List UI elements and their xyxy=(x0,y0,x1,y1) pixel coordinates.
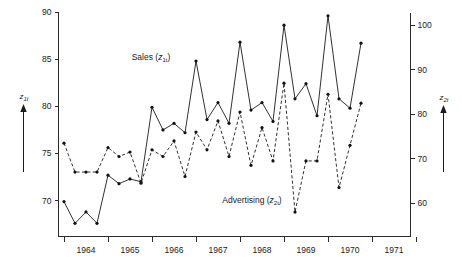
left-axis-ticks: 7075808590 xyxy=(42,7,58,206)
data-point-marker xyxy=(216,119,219,122)
data-point-marker xyxy=(194,130,197,133)
sales-series-markers xyxy=(62,14,362,225)
data-point-marker xyxy=(95,222,98,225)
right-tick-label: 60 xyxy=(418,198,428,208)
right-tick-label: 90 xyxy=(418,65,428,75)
data-point-marker xyxy=(172,122,175,125)
data-point-marker xyxy=(238,41,241,44)
data-point-marker xyxy=(282,24,285,27)
data-point-marker xyxy=(205,118,208,121)
right-tick-label: 70 xyxy=(418,154,428,164)
left-tick-label: 80 xyxy=(42,101,52,111)
data-point-marker xyxy=(128,177,131,180)
x-tick-label: 1971 xyxy=(385,245,404,255)
data-point-marker xyxy=(315,114,318,117)
x-tick-label: 1970 xyxy=(341,245,360,255)
sales-series-line xyxy=(64,16,361,224)
data-point-marker xyxy=(73,170,76,173)
data-point-marker xyxy=(227,155,230,158)
data-point-marker xyxy=(260,126,263,129)
right-axis-title-group: z2t xyxy=(438,93,448,172)
data-point-marker xyxy=(348,107,351,110)
x-tick-label: 1968 xyxy=(253,245,272,255)
data-point-marker xyxy=(326,93,329,96)
data-point-marker xyxy=(249,164,252,167)
data-point-marker xyxy=(139,182,142,185)
data-point-marker xyxy=(315,159,318,162)
data-point-marker xyxy=(238,110,241,113)
left-tick-label: 75 xyxy=(42,148,52,158)
data-point-marker xyxy=(106,174,109,177)
data-point-marker xyxy=(150,148,153,151)
x-tick-label: 1969 xyxy=(297,245,316,255)
right-axis-title: z2t xyxy=(438,93,448,103)
data-point-marker xyxy=(260,101,263,104)
data-point-marker xyxy=(348,144,351,147)
data-point-marker xyxy=(183,175,186,178)
data-point-marker xyxy=(205,148,208,151)
x-axis-ticks xyxy=(64,237,416,242)
sales-advertising-timeseries-chart: 7075808590 60708090100 19641965196619671… xyxy=(0,0,462,264)
data-point-marker xyxy=(73,222,76,225)
data-point-marker xyxy=(183,131,186,134)
advertising-series-markers xyxy=(62,82,362,214)
left-axis-title: z1t xyxy=(18,92,28,102)
data-point-marker xyxy=(359,102,362,105)
left-axis: 7075808590 xyxy=(42,7,58,237)
right-axis: 60708090100 xyxy=(411,13,432,237)
right-axis-arrow-head xyxy=(440,105,446,113)
data-point-marker xyxy=(84,170,87,173)
left-tick-label: 85 xyxy=(42,54,52,64)
data-point-marker xyxy=(326,14,329,17)
series-group xyxy=(62,14,362,225)
data-point-marker xyxy=(194,59,197,62)
data-point-marker xyxy=(227,122,230,125)
data-point-marker xyxy=(249,109,252,112)
data-point-marker xyxy=(271,120,274,123)
data-point-marker xyxy=(282,82,285,85)
data-point-marker xyxy=(359,42,362,45)
data-point-marker xyxy=(106,146,109,149)
x-tick-label: 1965 xyxy=(121,245,140,255)
data-point-marker xyxy=(304,159,307,162)
data-point-marker xyxy=(117,155,120,158)
sales-series-annotation: Sales (z1t) xyxy=(132,52,171,63)
data-point-marker xyxy=(117,182,120,185)
data-point-marker xyxy=(293,97,296,100)
data-point-marker xyxy=(304,82,307,85)
x-tick-label: 1964 xyxy=(77,245,96,255)
left-axis-title-group: z1t xyxy=(18,92,28,172)
data-point-marker xyxy=(161,155,164,158)
data-point-marker xyxy=(84,210,87,213)
data-point-marker xyxy=(95,170,98,173)
data-point-marker xyxy=(216,101,219,104)
x-axis-tick-labels: 19641965196619671968196919701971 xyxy=(77,245,404,255)
left-tick-label: 70 xyxy=(42,196,52,206)
data-point-marker xyxy=(293,210,296,213)
left-axis-arrow-head xyxy=(20,104,26,112)
x-tick-label: 1967 xyxy=(209,245,228,255)
data-point-marker xyxy=(337,186,340,189)
x-tick-label: 1966 xyxy=(165,245,184,255)
right-tick-label: 80 xyxy=(418,109,428,119)
data-point-marker xyxy=(150,106,153,109)
advertising-series-annotation: Advertising (z2t) xyxy=(222,195,282,206)
data-point-marker xyxy=(172,139,175,142)
data-point-marker xyxy=(271,159,274,162)
right-tick-label: 100 xyxy=(418,20,432,30)
left-tick-label: 90 xyxy=(42,7,52,17)
data-point-marker xyxy=(62,142,65,145)
data-point-marker xyxy=(62,200,65,203)
chart-page: 7075808590 60708090100 19641965196619671… xyxy=(0,0,462,264)
data-point-marker xyxy=(161,128,164,131)
data-point-marker xyxy=(128,150,131,153)
x-axis: 19641965196619671968196919701971 xyxy=(59,237,417,255)
right-axis-ticks: 60708090100 xyxy=(411,20,432,208)
data-point-marker xyxy=(337,97,340,100)
